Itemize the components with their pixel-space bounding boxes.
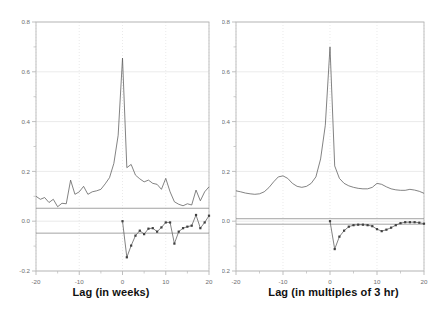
series-marker (178, 231, 180, 233)
series-marker (204, 221, 206, 223)
series-marker (371, 225, 373, 227)
series-marker (390, 227, 392, 229)
y-tick-label: -0.2 (19, 267, 30, 274)
series-marker (169, 221, 171, 223)
series-marker (352, 224, 354, 226)
series-marker (208, 215, 210, 217)
y-tick-label: 0.8 (222, 18, 231, 25)
series-marker (156, 231, 158, 233)
series-marker (418, 222, 420, 224)
series-marker (409, 221, 411, 223)
y-tick-label: 0.2 (222, 168, 231, 175)
series-marker (195, 214, 197, 216)
chart-panel-right: -20-1001020-0.20.00.20.40.60.8 (222, 0, 445, 315)
series-marker (165, 221, 167, 223)
series-marker (130, 245, 132, 247)
chart-panel-left: -20-1001020-0.20.00.20.40.60.8 (0, 0, 222, 315)
series-marker (160, 226, 162, 228)
series-marker (338, 236, 340, 238)
x-tick-label: 10 (374, 278, 381, 285)
acf-plot-3hr: -20-1001020-0.20.00.20.40.60.8 (222, 0, 445, 286)
series-marker (121, 220, 123, 222)
series-marker (348, 226, 350, 228)
y-tick-label: 0.4 (21, 118, 30, 125)
series-marker (362, 224, 364, 226)
y-tick-label: 0.2 (21, 168, 30, 175)
y-tick-label: 0.0 (222, 217, 231, 224)
x-tick-label: 0 (121, 278, 125, 285)
series-marker (182, 227, 184, 229)
x-axis-title-right: Lag (in multiples of 3 hr) (222, 286, 445, 298)
x-tick-label: 20 (421, 278, 428, 285)
series-marker (381, 230, 383, 232)
series-marker (399, 222, 401, 224)
series-marker (343, 230, 345, 232)
x-tick-label: -10 (279, 278, 289, 285)
series-marker (414, 221, 416, 223)
y-tick-label: 0.0 (21, 217, 30, 224)
x-tick-label: 10 (162, 278, 169, 285)
series-marker (329, 220, 331, 222)
series-marker (367, 224, 369, 226)
y-tick-label: 0.8 (21, 18, 30, 25)
series-marker (152, 227, 154, 229)
series-marker (126, 256, 128, 258)
figure-root: -20-1001020-0.20.00.20.40.60.8 -20-10010… (0, 0, 445, 315)
x-tick-label: 20 (206, 278, 213, 285)
series-marker (334, 248, 336, 250)
series-marker (191, 225, 193, 227)
x-tick-label: -10 (75, 278, 85, 285)
series-marker (404, 221, 406, 223)
y-tick-label: 0.6 (222, 68, 231, 75)
series-marker (395, 224, 397, 226)
series-marker (147, 228, 149, 230)
y-tick-label: 0.4 (222, 118, 231, 125)
series-marker (134, 235, 136, 237)
series-marker (186, 226, 188, 228)
series-marker (385, 229, 387, 231)
series-marker (173, 243, 175, 245)
x-tick-label: -20 (232, 278, 242, 285)
series-marker (199, 227, 201, 229)
y-tick-label: -0.2 (222, 267, 231, 274)
y-tick-label: 0.6 (21, 68, 30, 75)
series-marker (357, 224, 359, 226)
x-axis-title-left: Lag (in weeks) (0, 286, 222, 298)
series-marker (376, 228, 378, 230)
series-marker (139, 230, 141, 232)
series-marker (143, 233, 145, 235)
x-tick-label: 0 (328, 278, 332, 285)
x-tick-label: -20 (32, 278, 42, 285)
series-marker (423, 223, 425, 225)
plot-frame (236, 22, 424, 271)
acf-plot-weekly: -20-1001020-0.20.00.20.40.60.8 (0, 0, 222, 286)
